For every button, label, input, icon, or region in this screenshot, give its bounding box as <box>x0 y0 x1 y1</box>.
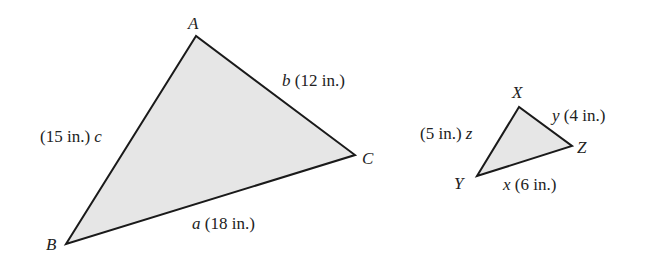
side-y-length: (4 in.) <box>564 106 606 125</box>
side-x-var: x <box>503 175 511 194</box>
vertex-label-x: X <box>512 84 522 101</box>
side-b-length: (12 in.) <box>295 71 345 90</box>
side-c-length: (15 in.) <box>40 127 90 146</box>
side-z-var: z <box>466 124 473 143</box>
side-label-y: y (4 in.) <box>552 107 605 124</box>
vertex-label-z: Z <box>577 139 586 156</box>
side-x-length: (6 in.) <box>515 175 557 194</box>
side-b-var: b <box>282 71 291 90</box>
side-a-var: a <box>192 214 201 233</box>
side-y-var: y <box>552 106 560 125</box>
vertex-label-c: C <box>362 150 373 167</box>
side-z-length: (5 in.) <box>420 124 462 143</box>
side-a-length: (18 in.) <box>205 214 255 233</box>
vertex-label-b: B <box>46 236 56 253</box>
side-label-x: x (6 in.) <box>503 176 556 193</box>
side-label-c: (15 in.) c <box>40 128 102 145</box>
side-label-z: (5 in.) z <box>420 125 472 142</box>
side-label-b: b (12 in.) <box>282 72 345 89</box>
triangle-abc <box>66 36 355 244</box>
side-c-var: c <box>94 127 102 146</box>
vertex-label-y: Y <box>454 175 463 192</box>
side-label-a: a (18 in.) <box>192 215 255 232</box>
vertex-label-a: A <box>188 15 198 32</box>
